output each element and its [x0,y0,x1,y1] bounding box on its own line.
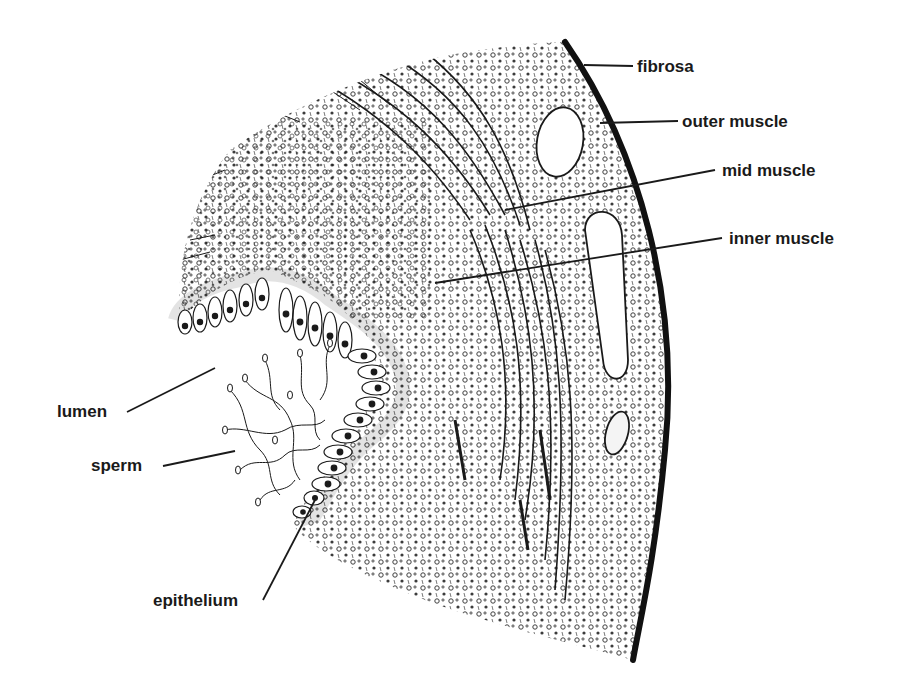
label-fibrosa: fibrosa [637,58,694,75]
label-lumen: lumen [57,403,107,420]
ductus-deferens-illustration [0,0,900,695]
leader-fibrosa [584,65,633,66]
label-epithelium: epithelium [153,592,238,609]
label-outer-muscle: outer muscle [682,113,788,130]
label-mid-muscle: mid muscle [722,162,816,179]
label-sperm: sperm [91,457,142,474]
label-inner-muscle: inner muscle [729,230,834,247]
